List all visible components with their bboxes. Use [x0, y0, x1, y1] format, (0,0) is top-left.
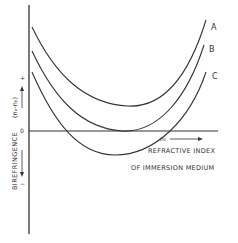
y-plus-sign: +	[20, 74, 25, 81]
y-minus-sign: −	[20, 180, 25, 187]
y-up-arrowhead-icon	[20, 86, 24, 91]
curve-c-line	[32, 72, 206, 155]
curve-a	[32, 20, 206, 106]
n2-label: n₂	[160, 135, 167, 142]
label-b: B	[209, 45, 215, 54]
y-label-main: BIREFRINGENCE	[11, 132, 19, 190]
label-a: A	[211, 23, 217, 32]
x-label-line1: REFRACTIVE INDEX	[148, 147, 215, 155]
label-c: C	[212, 72, 218, 81]
curve-a-line	[32, 20, 206, 106]
curve-b-line	[32, 45, 204, 131]
x-label-line2: OF IMMERSION MEDIUM	[131, 164, 214, 172]
zero-label: 0	[20, 127, 24, 134]
y-down-arrowhead-icon	[20, 172, 24, 177]
y-label-symbol: (nₑ-n₀)	[11, 97, 19, 118]
n2-arrowhead-icon	[198, 137, 203, 141]
birefringence-chart: A B C 0 n₂ REFRACTIVE INDEX OF IMMERSION…	[0, 0, 238, 243]
